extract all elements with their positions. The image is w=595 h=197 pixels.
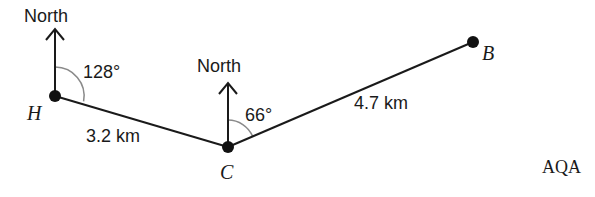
point-b [467,36,479,48]
point-label-c: C [220,161,234,183]
bearing-diagram: North North 128° 66° 3.2 km 4.7 km H C B… [0,0,595,197]
bearing-label-h: 128° [83,62,120,82]
segment-label-cb: 4.7 km [354,93,408,113]
point-h [49,90,61,102]
point-c [222,141,234,153]
source-label: AQA [542,157,581,177]
north-label-c: North [197,56,241,76]
segment-hc [55,96,228,147]
point-label-h: H [26,102,43,124]
north-label-h: North [24,6,68,26]
north-arrow-c-icon [219,83,237,147]
segment-cb [228,42,473,147]
point-label-b: B [482,42,494,64]
north-arrow-h-icon [46,29,64,96]
segment-label-hc: 3.2 km [86,126,140,146]
bearing-label-c: 66° [245,105,272,125]
